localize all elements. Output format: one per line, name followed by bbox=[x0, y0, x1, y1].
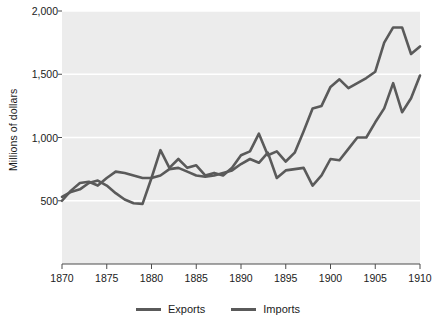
x-tick-label-3: 1885 bbox=[176, 272, 216, 284]
legend-swatch-exports bbox=[136, 308, 161, 311]
x-tick-label-5: 1895 bbox=[266, 272, 306, 284]
legend-swatch-imports bbox=[231, 308, 256, 311]
y-tick-label-1: 1,000 bbox=[14, 133, 58, 143]
x-tick-label-8: 1910 bbox=[400, 272, 436, 284]
x-tick-label-2: 1880 bbox=[132, 272, 172, 284]
x-tick-label-6: 1900 bbox=[311, 272, 351, 284]
legend-label-exports: Exports bbox=[168, 303, 205, 315]
legend-label-imports: Imports bbox=[263, 303, 300, 315]
y-tick-label-0: 500 bbox=[14, 196, 58, 206]
line-chart: Millions of dollars 5001,0001,5002,000 1… bbox=[0, 0, 436, 329]
chart-legend: Exports Imports bbox=[0, 303, 436, 315]
legend-item-imports[interactable]: Imports bbox=[231, 303, 300, 315]
legend-item-exports[interactable]: Exports bbox=[136, 303, 205, 315]
y-tick-label-2: 1,500 bbox=[14, 69, 58, 79]
x-tick-label-7: 1905 bbox=[355, 272, 395, 284]
x-tick-label-1: 1875 bbox=[87, 272, 127, 284]
x-tick-label-0: 1870 bbox=[42, 272, 82, 284]
x-tick-label-4: 1890 bbox=[221, 272, 261, 284]
y-tick-label-3: 2,000 bbox=[14, 6, 58, 16]
